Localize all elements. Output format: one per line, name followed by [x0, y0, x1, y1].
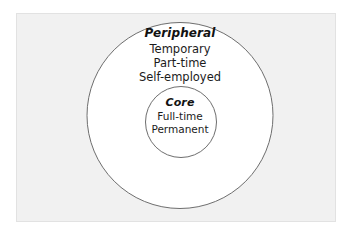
peripheral-item-part-time: Part-time — [100, 56, 260, 70]
core-item-permanent: Permanent — [130, 123, 230, 136]
peripheral-label-group: Peripheral Temporary Part-time Self-empl… — [100, 26, 260, 85]
peripheral-item-self-employed: Self-employed — [100, 70, 260, 84]
peripheral-heading: Peripheral — [100, 26, 260, 41]
figure-canvas: Peripheral Temporary Part-time Self-empl… — [0, 0, 352, 236]
core-heading: Core — [130, 96, 230, 110]
core-item-full-time: Full-time — [130, 110, 230, 123]
core-label-group: Core Full-time Permanent — [130, 96, 230, 136]
peripheral-item-temporary: Temporary — [100, 42, 260, 56]
